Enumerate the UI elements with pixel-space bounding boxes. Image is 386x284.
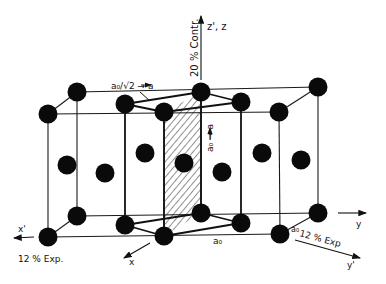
atom [68, 83, 87, 102]
x-prime-label: x' [18, 224, 26, 234]
ao-vertical-label: a₀ → a [205, 124, 215, 152]
atom [155, 103, 174, 122]
atom [213, 163, 232, 182]
z-axis-label: z', z [207, 21, 227, 32]
ao-bottom-label: a₀ [213, 236, 223, 246]
atom [270, 103, 289, 122]
x-axis-label: x [129, 257, 135, 267]
atom [175, 154, 194, 173]
y-axis-label: y [356, 219, 362, 229]
atom [39, 228, 58, 247]
atom [253, 144, 272, 163]
atom [271, 225, 290, 244]
atom [292, 151, 311, 170]
ao-right-label: a₀ [291, 225, 299, 234]
atom [309, 78, 328, 97]
atom [309, 204, 328, 223]
atom [58, 156, 77, 175]
atom [39, 105, 58, 124]
atom [155, 227, 174, 246]
atom [232, 93, 251, 112]
atom [136, 144, 155, 163]
atom [96, 164, 115, 183]
atom [192, 83, 211, 102]
atom [116, 216, 135, 235]
atom [116, 95, 135, 114]
bain-lattice-diagram: z', z 20 % Contr. a₀/√2 → a a₀ → a a₀ a₀… [0, 0, 386, 284]
y-prime-label: y' [347, 260, 355, 270]
x-axis [124, 243, 150, 258]
atom [192, 204, 211, 223]
z-contraction-label: 20 % Contr. [189, 19, 200, 77]
x-prime-axis [14, 237, 34, 238]
ao-sqrt2-label: a₀/√2 → a [111, 81, 153, 91]
x-prime-expansion-label: 12 % Exp. [18, 254, 63, 264]
y-prime-expansion-label: 12 % Exp [298, 228, 342, 249]
atom [68, 207, 87, 226]
atom [232, 214, 251, 233]
